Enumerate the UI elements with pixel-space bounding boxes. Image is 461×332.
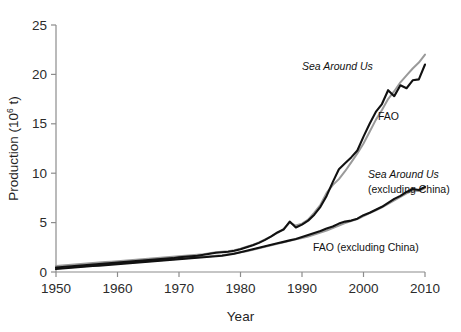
x-tick-label: 2000	[348, 281, 378, 296]
x-tick-label: 1950	[41, 281, 71, 296]
line-chart: 05101520251950196019701980199020002010 S…	[0, 0, 461, 332]
y-axis-title: Production (106 t)	[5, 96, 21, 201]
series-line-fao	[56, 55, 425, 266]
series-line-fao-excluding-china	[56, 188, 425, 269]
x-tick-label: 2010	[410, 281, 440, 296]
y-tick-label: 15	[32, 116, 47, 131]
y-axis-title-prefix: Production (10	[6, 113, 21, 201]
y-tick-label: 10	[32, 166, 47, 181]
chart-container: 05101520251950196019701980199020002010 S…	[0, 0, 461, 332]
label-fao: FAO	[378, 110, 399, 122]
label-sea-around-us: Sea Around Us	[302, 60, 374, 72]
y-tick-label: 0	[39, 265, 47, 280]
label-fao-excluding-china: FAO (excluding China)	[313, 241, 419, 253]
y-tick-label: 20	[32, 67, 47, 82]
label-sau-excluding-china-line1: Sea Around Us	[368, 168, 440, 180]
x-tick-label: 1970	[164, 281, 194, 296]
series-line-sea-around-us-excluding-china	[56, 187, 425, 269]
series-line-sea-around-us	[56, 65, 425, 268]
y-tick-label: 25	[32, 18, 47, 33]
x-tick-label: 1960	[102, 281, 132, 296]
x-axis-title: Year	[227, 309, 255, 324]
label-sau-excluding-china-line2: (excluding China)	[368, 183, 450, 195]
annotation-group: Sea Around UsFAOSea Around Us(excluding …	[302, 60, 450, 253]
y-tick-label: 5	[39, 215, 47, 230]
x-tick-label: 1990	[287, 281, 317, 296]
y-axis-title-suffix: t)	[6, 96, 21, 108]
series-group	[56, 55, 425, 269]
x-tick-label: 1980	[225, 281, 255, 296]
